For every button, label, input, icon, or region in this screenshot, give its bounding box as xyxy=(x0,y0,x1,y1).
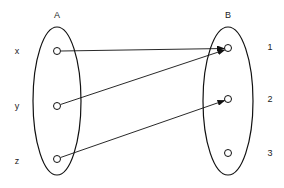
point-x xyxy=(54,48,61,55)
element-1-label: 1 xyxy=(267,42,272,52)
arrow-y-to-1 xyxy=(61,50,225,105)
arrow-x-to-1 xyxy=(61,49,224,52)
element-3-label: 3 xyxy=(267,148,272,158)
element-y-label: y xyxy=(15,101,20,111)
element-x-label: x xyxy=(15,46,20,56)
set-a-label: A xyxy=(54,10,60,20)
set-b-label: B xyxy=(225,10,231,20)
mapping-diagram: A x y z B 1 2 3 xyxy=(0,0,284,188)
point-z xyxy=(54,156,61,163)
element-z-label: z xyxy=(15,156,20,166)
arrow-z-to-2 xyxy=(61,101,225,158)
point-3 xyxy=(225,150,232,157)
point-1 xyxy=(225,45,232,52)
point-y xyxy=(54,103,61,110)
point-2 xyxy=(225,96,232,103)
element-2-label: 2 xyxy=(267,94,272,104)
